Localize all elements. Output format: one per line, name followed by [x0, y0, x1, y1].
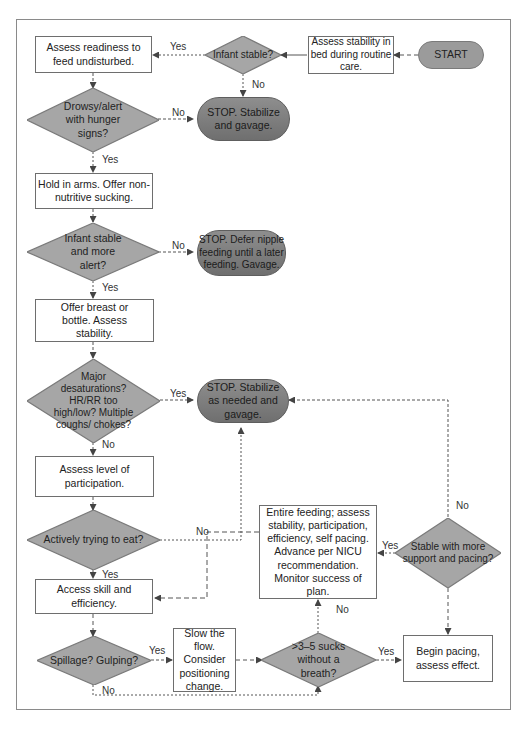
process-slow-flow: Slow the flow. Consider positioning chan… [173, 628, 236, 692]
process-access-skill: Access skill and efficiency. [35, 579, 153, 614]
process-text: Slow the flow. Consider positioning chan… [174, 627, 235, 693]
decision-text: >3–5 sucks without a breath? [261, 640, 376, 679]
process-text: Access skill and efficiency. [36, 583, 152, 609]
edge-label-no: No [336, 604, 349, 615]
decision-sucks-without-breath: >3–5 sucks without a breath? [261, 633, 376, 687]
decision-text: Major desaturations? HR/RR too high/low?… [27, 371, 160, 431]
start-terminal: START [418, 41, 484, 69]
decision-text: Drowsy/alert with hunger signs? [27, 100, 159, 139]
process-text: Entire feeding; assess stability, partic… [260, 506, 376, 598]
decision-major-desaturations: Major desaturations? HR/RR too high/low?… [27, 359, 160, 443]
process-text: Begin pacing, assess effect. [404, 645, 492, 671]
edge-label-no: No [252, 79, 265, 90]
process-entire-feeding: Entire feeding; assess stability, partic… [259, 505, 377, 599]
edge-label-no: No [456, 500, 469, 511]
process-text: Assess level of participation. [36, 463, 153, 489]
decision-text: Spillage? Gulping? [44, 654, 144, 667]
edge-label-yes: Yes [102, 282, 118, 293]
edge-label-yes: Yes [102, 154, 118, 165]
stop-stabilize-needed: STOP. Stabilize as needed and gavage. [197, 379, 289, 423]
stop-text: STOP. Stabilize as needed and gavage. [198, 381, 288, 420]
process-text: Hold in arms. Offer non-nutritive suckin… [36, 178, 152, 204]
process-offer-breast: Offer breast or bottle. Assess stability… [35, 299, 154, 342]
decision-actively-trying: Actively trying to eat? [27, 510, 160, 570]
stop-defer-nipple: STOP. Defer nipple feeding until a later… [197, 230, 286, 276]
decision-drowsy-alert: Drowsy/alert with hunger signs? [27, 88, 159, 152]
edge-label-no: No [172, 107, 185, 118]
process-text: Assess stability in bed during routine c… [309, 36, 393, 74]
edge-label-no: No [172, 240, 185, 251]
process-begin-pacing: Begin pacing, assess effect. [403, 635, 493, 682]
process-assess-participation: Assess level of participation. [35, 456, 154, 497]
edge-label-yes: Yes [149, 645, 165, 656]
stop-stabilize-gavage: STOP. Stabilize and gavage. [197, 97, 290, 141]
decision-text: Actively trying to eat? [38, 533, 150, 546]
stop-text: STOP. Stabilize and gavage. [198, 106, 289, 132]
decision-spillage-gulping: Spillage? Gulping? [37, 636, 151, 685]
decision-infant-stable-alert: Infant stable and more alert? [27, 223, 159, 281]
edge-label-yes: Yes [170, 41, 186, 52]
edge-label-yes: Yes [170, 388, 186, 399]
decision-text: Infant stable and more alert? [27, 232, 159, 271]
decision-stable-more-support: Stable with more support and pacing? [395, 518, 501, 588]
decision-text: Stable with more support and pacing? [395, 541, 501, 566]
process-hold-in-arms: Hold in arms. Offer non-nutritive suckin… [35, 173, 153, 209]
edge-label-no: No [102, 439, 115, 450]
stop-text: STOP. Defer nipple feeding until a later… [198, 234, 285, 272]
start-label: START [434, 48, 467, 61]
edge-label-yes: Yes [378, 646, 394, 657]
decision-text: Infant stable? [207, 49, 279, 62]
edge-label-yes: Yes [102, 569, 118, 580]
process-text: Offer breast or bottle. Assess stability… [36, 301, 153, 340]
process-text: Assess readiness to feed undisturbed. [36, 41, 151, 67]
process-assess-stability-bed: Assess stability in bed during routine c… [308, 36, 394, 74]
decision-infant-stable: Infant stable? [205, 36, 281, 74]
edge-label-no: No [196, 526, 209, 537]
edge-label-no: No [102, 685, 115, 696]
process-assess-readiness: Assess readiness to feed undisturbed. [35, 36, 152, 73]
